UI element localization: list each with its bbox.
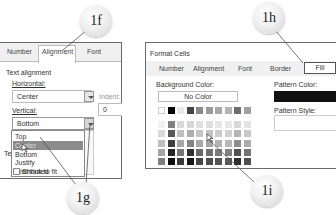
callout-1h: 1h [253,2,285,34]
callout-1f: 1f [80,5,112,37]
callout-1g: 1g [67,182,99,214]
callout-leader-lines [0,0,336,215]
callout-1i: 1i [251,175,283,207]
